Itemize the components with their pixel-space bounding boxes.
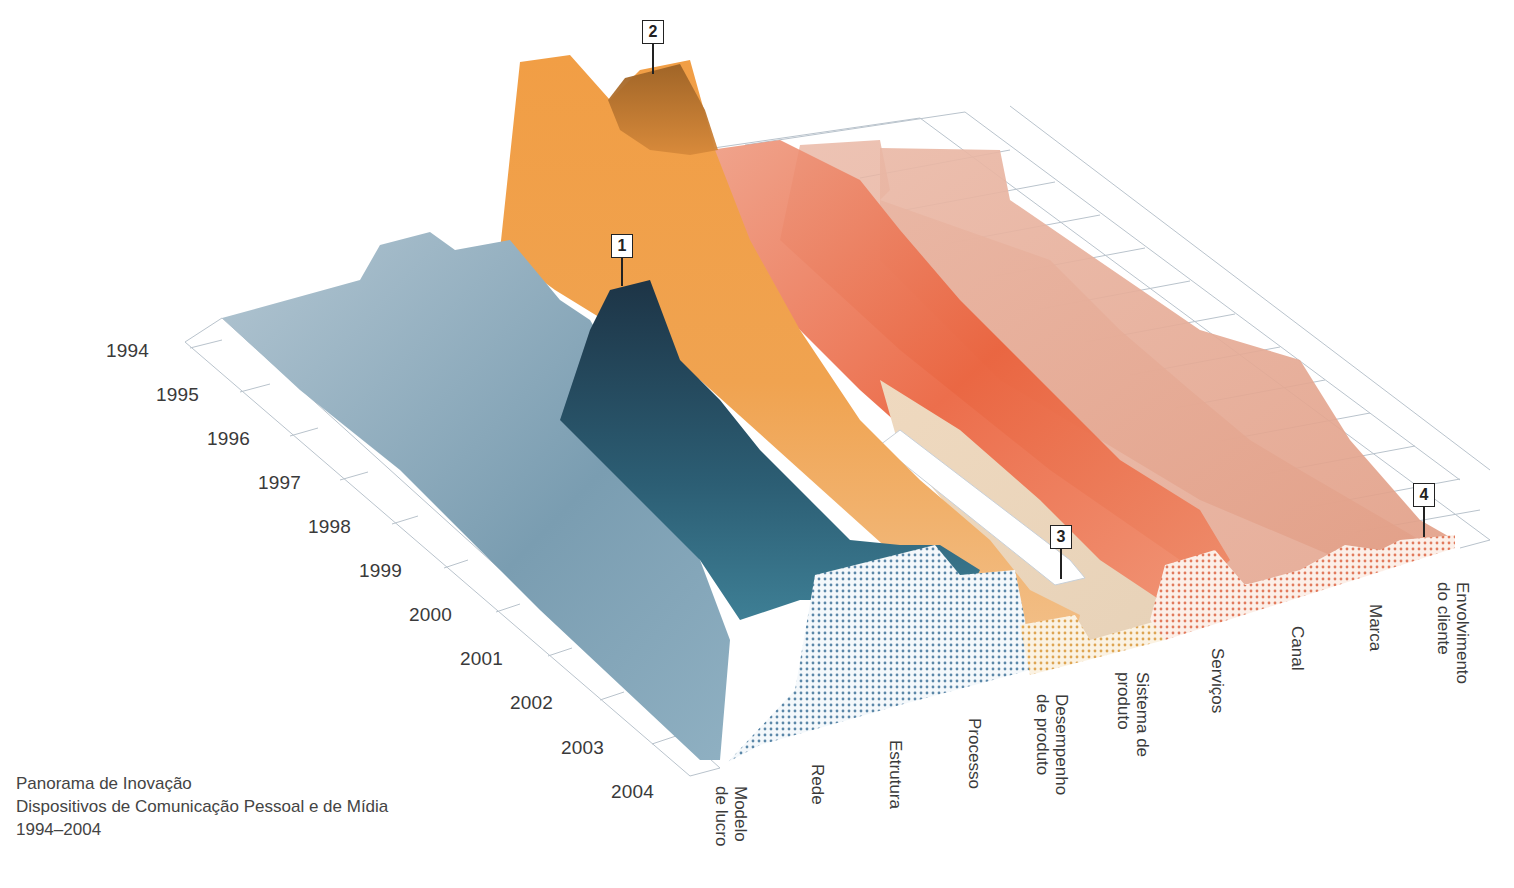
caption-subtitle: Dispositivos de Comunicação Pessoal e de… bbox=[16, 795, 388, 818]
year-label-2002: 2002 bbox=[510, 692, 553, 714]
callout-2-leader bbox=[652, 44, 654, 74]
category-label-desempenho-de-produto: Desempenho de produto bbox=[1033, 694, 1071, 795]
category-label-servicos: Serviços bbox=[1208, 648, 1227, 713]
year-label-1999: 1999 bbox=[359, 560, 402, 582]
category-label-marca: Marca bbox=[1366, 604, 1385, 651]
category-label-processo: Processo bbox=[965, 718, 984, 789]
year-label-1998: 1998 bbox=[308, 516, 351, 538]
callout-2: 2 bbox=[642, 20, 664, 44]
year-label-1995: 1995 bbox=[156, 384, 199, 406]
year-label-2004: 2004 bbox=[611, 781, 654, 803]
callout-1: 1 bbox=[611, 234, 633, 258]
year-label-1997: 1997 bbox=[258, 472, 301, 494]
category-label-canal: Canal bbox=[1288, 626, 1307, 670]
caption-title: Panorama de Inovação bbox=[16, 772, 388, 795]
callout-1-leader bbox=[621, 258, 623, 286]
category-label-rede: Rede bbox=[808, 764, 827, 805]
chart-caption: Panorama de Inovação Dispositivos de Com… bbox=[16, 772, 388, 841]
callout-3-leader bbox=[1060, 549, 1062, 579]
caption-period: 1994–2004 bbox=[16, 818, 388, 841]
year-label-2000: 2000 bbox=[409, 604, 452, 626]
category-label-estrutura: Estrutura bbox=[886, 740, 905, 809]
year-label-1996: 1996 bbox=[207, 428, 250, 450]
year-label-1994: 1994 bbox=[106, 340, 149, 362]
category-label-envolvimento-do-cliente: Envolvimento do cliente bbox=[1434, 582, 1472, 684]
year-label-2001: 2001 bbox=[460, 648, 503, 670]
year-label-2003: 2003 bbox=[561, 737, 604, 759]
category-label-modelo-de-lucro: Modelo de lucro bbox=[712, 786, 750, 846]
callout-3: 3 bbox=[1050, 525, 1072, 549]
callout-4: 4 bbox=[1413, 483, 1435, 507]
callout-4-leader bbox=[1423, 507, 1425, 537]
category-label-sistema-de-produto: Sistema de produto bbox=[1114, 672, 1152, 757]
